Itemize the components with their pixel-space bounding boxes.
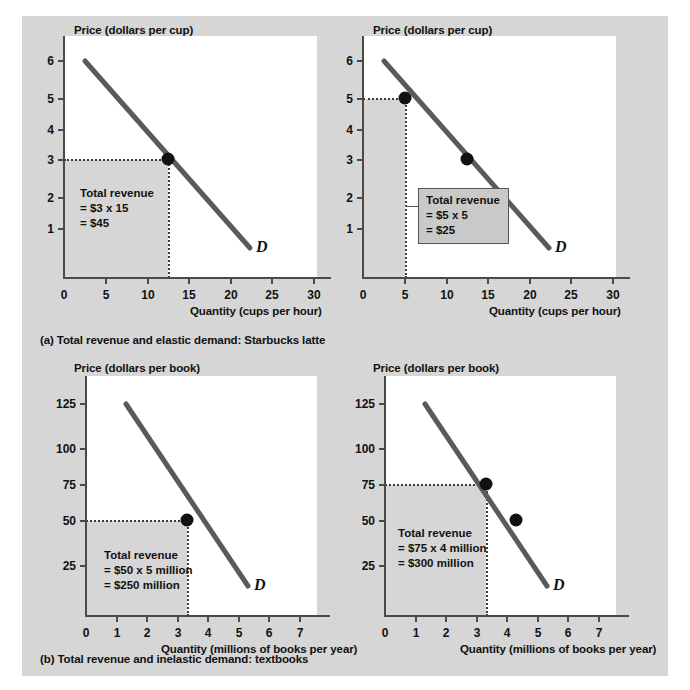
x-tick	[567, 616, 569, 622]
chart-panel-b-right: Price (dollars per book) D 125 100 75 50…	[345, 356, 668, 676]
panel-b-caption: (b) Total revenue and inelastic demand: …	[40, 653, 308, 665]
y-tick-label: 6	[331, 54, 353, 68]
annotation-line: = $3 x 15	[80, 201, 154, 216]
annotation-line: = $45	[80, 216, 154, 231]
y-tick-label: 5	[32, 92, 54, 106]
y-tick-label: 100	[42, 442, 76, 456]
x-tick-label: 15	[478, 288, 498, 302]
y-tick-label: 100	[341, 442, 375, 456]
y-tick-label: 3	[331, 153, 353, 167]
x-tick-label: 4	[198, 626, 218, 640]
x-tick-label: 25	[262, 288, 282, 302]
annotation-line: Total revenue	[80, 186, 154, 201]
y-tick-label: 50	[42, 514, 76, 528]
annotation-line: Total revenue	[398, 526, 487, 541]
x-tick-label: 5	[229, 626, 249, 640]
annotation-line: Total revenue	[104, 548, 193, 563]
y-tick	[357, 98, 363, 100]
y-axis-line	[63, 36, 65, 278]
x-tick	[299, 616, 301, 622]
x-tick-label: 20	[221, 288, 241, 302]
x-tick	[537, 616, 539, 622]
y-tick-label: 25	[341, 559, 375, 573]
y-tick-label: 50	[341, 514, 375, 528]
x-tick-label: 7	[290, 626, 310, 640]
demand-curve-label: D	[254, 576, 266, 594]
y-tick	[80, 484, 86, 486]
x-axis-title: Quantity (millions of books per year)	[460, 643, 656, 655]
x-tick	[487, 278, 489, 284]
x-tick	[238, 616, 240, 622]
y-tick-label: 125	[341, 397, 375, 411]
x-tick-label: 10	[138, 288, 158, 302]
y-tick	[80, 403, 86, 405]
annotation-line: = $50 x 5 million	[104, 563, 193, 578]
y-axis-line	[362, 36, 364, 278]
x-tick-label: 1	[107, 626, 127, 640]
x-tick	[147, 278, 149, 284]
chart-panel-b-left: Price (dollars per book) D 125 100 75 50…	[22, 356, 345, 676]
callout-leader-line	[405, 206, 419, 207]
x-tick-label: 0	[375, 626, 395, 640]
annotation-line: = $5 x 5	[426, 208, 500, 223]
annotation-line: = $75 x 4 million	[398, 541, 487, 556]
y-tick	[379, 565, 385, 567]
x-tick-label: 0	[76, 626, 96, 640]
y-tick	[80, 565, 86, 567]
y-tick-label: 5	[331, 92, 353, 106]
annotation-line: = $250 million	[104, 578, 193, 593]
x-axis-title: Quantity (cups per hour)	[190, 305, 322, 317]
x-tick	[230, 278, 232, 284]
y-tick	[80, 448, 86, 450]
x-tick	[146, 616, 148, 622]
y-tick	[58, 159, 64, 161]
y-tick-label: 75	[42, 478, 76, 492]
y-tick	[379, 448, 385, 450]
y-tick	[357, 60, 363, 62]
x-tick-label: 20	[520, 288, 540, 302]
total-revenue-annotation: Total revenue = $3 x 15 = $45	[80, 186, 154, 231]
x-tick	[506, 616, 508, 622]
y-tick-label: 25	[42, 559, 76, 573]
y-tick-label: 4	[32, 123, 54, 137]
x-tick-label: 6	[259, 626, 279, 640]
x-tick-label: 7	[589, 626, 609, 640]
annotation-line: = $25	[426, 223, 500, 238]
annotation-line: = $300 million	[398, 556, 487, 571]
x-axis-title: Quantity (cups per hour)	[489, 305, 621, 317]
x-tick-label: 0	[353, 288, 373, 302]
x-tick-label: 2	[436, 626, 456, 640]
x-tick-label: 10	[437, 288, 457, 302]
x-tick-label: 4	[497, 626, 517, 640]
demand-curve-label: D	[553, 576, 565, 594]
y-tick-label: 1	[32, 222, 54, 236]
x-tick-label: 30	[304, 288, 324, 302]
y-tick	[379, 403, 385, 405]
x-tick	[476, 616, 478, 622]
y-tick	[58, 228, 64, 230]
x-tick	[612, 278, 614, 284]
x-tick-label: 1	[406, 626, 426, 640]
y-tick-label: 75	[341, 478, 375, 492]
total-revenue-annotation: Total revenue = $50 x 5 million = $250 m…	[104, 548, 193, 593]
x-tick-label: 6	[558, 626, 578, 640]
y-tick	[379, 520, 385, 522]
y-tick-label: 2	[32, 191, 54, 205]
x-tick	[207, 616, 209, 622]
y-axis-line	[384, 376, 386, 616]
annotation-line: Total revenue	[426, 193, 500, 208]
y-axis-line	[85, 376, 87, 616]
y-tick-label: 2	[331, 191, 353, 205]
x-tick	[177, 616, 179, 622]
chart-panel-a-right: Price (dollars per cup) D 6 5 4 3 2 1	[345, 16, 668, 346]
total-revenue-annotation: Total revenue = $75 x 4 million = $300 m…	[398, 526, 487, 571]
panel-a-caption: (a) Total revenue and elastic demand: St…	[40, 334, 325, 346]
x-tick-label: 0	[54, 288, 74, 302]
y-tick	[58, 129, 64, 131]
y-tick-label: 1	[331, 222, 353, 236]
x-tick	[404, 278, 406, 284]
x-tick	[313, 278, 315, 284]
y-tick	[58, 98, 64, 100]
x-tick-label: 2	[137, 626, 157, 640]
x-tick-label: 25	[561, 288, 581, 302]
